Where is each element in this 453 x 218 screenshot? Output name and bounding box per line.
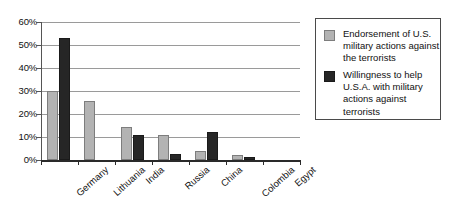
plot-area: 0%10%20%30%40%50%60% GermanyLithuaniaInd… — [0, 0, 310, 218]
legend-entry-label: Endorsement of U.S. military actions aga… — [343, 28, 445, 65]
grouped-bar-chart: 0%10%20%30%40%50%60% GermanyLithuaniaInd… — [0, 0, 453, 218]
x-axis-category-label: India — [143, 164, 166, 186]
x-axis-category-labels: GermanyLithuaniaIndiaRussiaChinaColombia… — [41, 164, 311, 218]
bar — [47, 91, 59, 160]
legend-swatch-icon — [324, 30, 335, 41]
y-axis-tick-label: 30% — [3, 86, 37, 96]
x-axis-category-label: Germany — [74, 164, 110, 198]
bar — [207, 132, 219, 160]
legend: Endorsement of U.S. military actions aga… — [315, 18, 441, 120]
y-axis-tick-label: 20% — [3, 109, 37, 119]
y-axis-tick-label: 60% — [3, 17, 37, 27]
y-axis-tick-labels: 0%10%20%30%40%50%60% — [0, 0, 37, 218]
bar — [133, 135, 145, 160]
y-axis-tick-label: 40% — [3, 63, 37, 73]
legend-swatch-icon — [324, 71, 335, 82]
x-axis-category-label: China — [218, 164, 244, 189]
y-axis-tick-label: 10% — [3, 132, 37, 142]
y-axis-tick-label: 0% — [3, 155, 37, 165]
x-axis-category-label: Russia — [182, 164, 211, 192]
bar — [158, 135, 170, 160]
x-axis-category-label: Colombia — [259, 164, 296, 199]
legend-entry-label: Willingness to help U.S.A. with military… — [343, 69, 445, 118]
x-axis-category-label: Egypt — [292, 164, 317, 188]
x-axis-category-label: Lithuania — [111, 164, 147, 198]
x-axis-line — [41, 160, 300, 162]
y-axis-tick-label: 50% — [3, 40, 37, 50]
bar — [59, 38, 71, 160]
bar — [121, 127, 133, 160]
bar — [195, 151, 207, 160]
bar — [84, 101, 96, 160]
